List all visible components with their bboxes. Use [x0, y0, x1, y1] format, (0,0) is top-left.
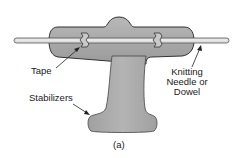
stabilizer-stem: [88, 56, 157, 133]
tape-label: Tape: [31, 66, 52, 76]
stabilizers-label: Stabilizers: [29, 93, 73, 103]
knitting-needle: [14, 38, 229, 43]
needle-label: Knitting Needle or Dowel: [160, 67, 214, 97]
figure-caption: (a): [113, 140, 125, 150]
needle-label-line3: Dowel: [160, 87, 214, 97]
needle-leader-arrow: [192, 45, 202, 67]
stabilizers-leader-arrow: [73, 104, 90, 115]
